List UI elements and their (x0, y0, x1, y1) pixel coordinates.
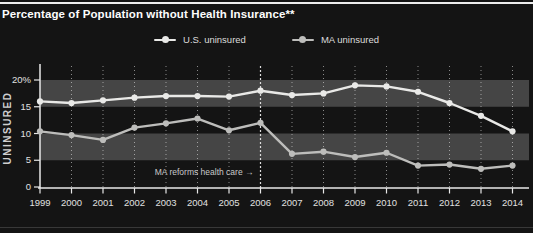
x-tick-label: 2006 (250, 197, 271, 208)
x-tick-label: 1999 (29, 197, 50, 208)
data-point-ma-2012 (446, 161, 452, 167)
x-tick-label: 2010 (376, 197, 397, 208)
data-point-us-2002 (131, 95, 137, 101)
y-axis-title: UNINSURED (2, 92, 13, 165)
x-tick-label: 2001 (92, 197, 113, 208)
data-point-us-2004 (194, 93, 200, 99)
data-point-ma-2000 (68, 132, 74, 138)
data-point-ma-2009 (352, 154, 358, 160)
x-tick-label: 2004 (187, 197, 208, 208)
data-point-ma-1999 (37, 128, 43, 134)
y-tick-label: 15 (20, 101, 31, 112)
data-point-us-2003 (163, 93, 169, 99)
y-tick-label: 20% (12, 74, 32, 85)
data-point-us-2001 (100, 97, 106, 103)
x-tick-label: 2013 (470, 197, 491, 208)
data-point-us-2006 (257, 88, 263, 94)
data-point-us-2005 (226, 93, 232, 99)
data-point-ma-2006 (257, 120, 263, 126)
uninsured-line-chart: 05101520%1999200020012002200320042005200… (0, 0, 533, 233)
x-tick-label: 2014 (502, 197, 523, 208)
x-tick-label: 2003 (155, 197, 176, 208)
data-point-ma-2007 (289, 151, 295, 157)
data-point-us-2009 (352, 82, 358, 88)
bottom-rule (0, 227, 533, 228)
x-tick-label: 2000 (61, 197, 82, 208)
data-point-ma-2014 (509, 163, 515, 169)
data-point-us-2008 (320, 90, 326, 96)
x-tick-label: 2012 (439, 197, 460, 208)
data-point-ma-2005 (226, 127, 232, 133)
data-point-us-2011 (415, 89, 421, 95)
data-point-us-2014 (509, 128, 515, 134)
data-point-ma-2002 (131, 125, 137, 131)
data-point-ma-2013 (478, 166, 484, 172)
data-point-us-2007 (289, 92, 295, 98)
data-point-us-1999 (37, 98, 43, 104)
data-point-us-2012 (446, 100, 452, 106)
y-tick-label: 10 (20, 128, 31, 139)
data-point-ma-2004 (194, 115, 200, 121)
data-point-us-2010 (383, 83, 389, 89)
x-tick-label: 2011 (408, 197, 428, 208)
annotation-reform: MA reforms health care → (155, 167, 254, 177)
y-tick-label: 0 (26, 181, 31, 192)
data-point-ma-2001 (100, 137, 106, 143)
y-tick-label: 5 (26, 154, 31, 165)
x-tick-label: 2002 (124, 197, 145, 208)
x-tick-label: 2008 (313, 197, 334, 208)
data-point-ma-2003 (163, 120, 169, 126)
data-point-us-2000 (68, 100, 74, 106)
data-point-ma-2008 (320, 149, 326, 155)
x-tick-label: 2007 (281, 197, 302, 208)
x-tick-label: 2005 (218, 197, 239, 208)
data-point-ma-2011 (415, 163, 421, 169)
data-point-us-2013 (478, 113, 484, 119)
x-tick-label: 2009 (344, 197, 365, 208)
data-point-ma-2010 (383, 150, 389, 156)
